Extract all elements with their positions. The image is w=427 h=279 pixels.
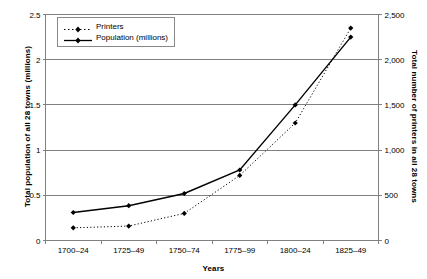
- legend-item-population: Population (millions): [62, 32, 168, 43]
- legend-label-population: Population (millions): [94, 32, 168, 43]
- chart-container: Total population of all 28 towns (millio…: [0, 0, 427, 279]
- chart-legend: Printers Population (millions): [57, 17, 175, 47]
- legend-item-printers: Printers: [62, 21, 168, 32]
- legend-label-printers: Printers: [94, 21, 124, 32]
- legend-key-printers-icon: [62, 21, 94, 32]
- legend-key-population-icon: [62, 32, 94, 43]
